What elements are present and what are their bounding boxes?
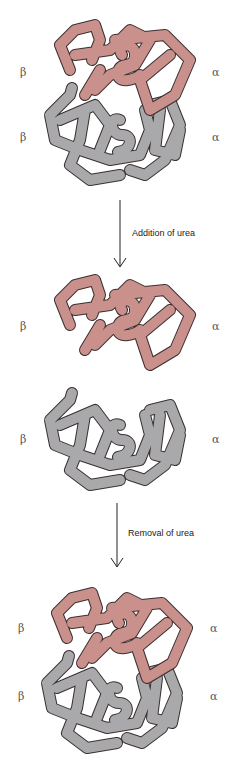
label-alpha-bottom-2: α (212, 433, 219, 446)
label-beta-bottom-2: β (20, 433, 26, 446)
stage-2-dissociated (50, 280, 190, 485)
dimer-gray (50, 393, 180, 485)
label-beta-top-1: β (20, 66, 26, 79)
arrow-addition (114, 200, 126, 267)
stage-1-tetramer (50, 25, 190, 180)
label-beta-bottom-3: β (18, 690, 24, 703)
label-alpha-top-2: α (212, 320, 219, 333)
label-alpha-top-3: α (210, 622, 217, 635)
label-alpha-top-1: α (212, 66, 219, 79)
label-beta-top-3: β (18, 622, 24, 635)
label-alpha-bottom-3: α (210, 690, 217, 703)
step-addition-label: Addition of urea (132, 228, 195, 238)
reassoc-pink (57, 593, 187, 678)
arrow-removal (111, 503, 123, 567)
dimer-pink (60, 280, 190, 365)
label-beta-top-2: β (20, 320, 26, 333)
stage-3-reassociated (47, 593, 187, 748)
step-removal-label: Removal of urea (128, 528, 194, 538)
label-beta-bottom-1: β (20, 131, 26, 144)
diagram-canvas (0, 0, 234, 766)
beta-alpha-dimer-pink (60, 25, 190, 110)
label-alpha-bottom-1: α (212, 131, 219, 144)
